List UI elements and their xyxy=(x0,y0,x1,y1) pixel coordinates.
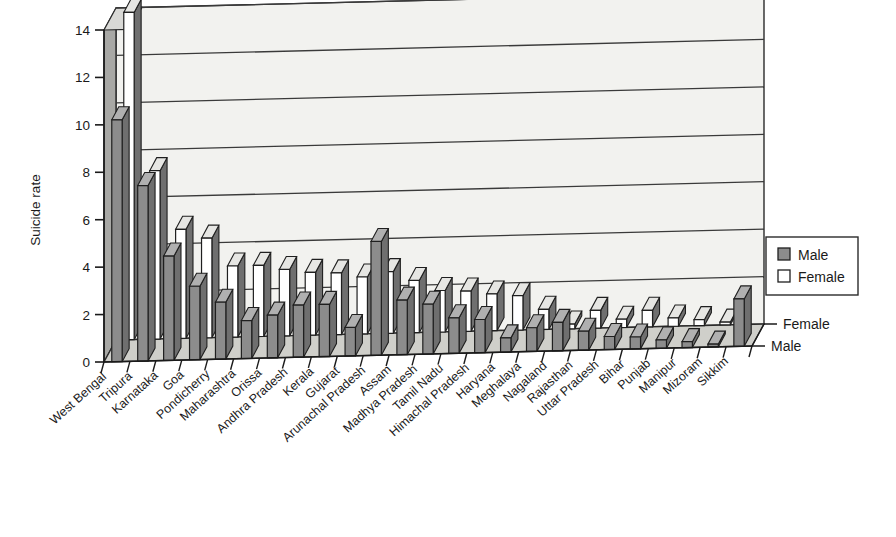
y-tick-label: 8 xyxy=(82,165,90,180)
bar xyxy=(423,291,440,354)
y-axis: 02468101214 xyxy=(75,23,104,370)
bar xyxy=(267,302,284,358)
bar xyxy=(215,289,232,359)
y-tick-label: 6 xyxy=(82,213,90,228)
legend-label: Male xyxy=(798,247,829,263)
depth-axis-label: Male xyxy=(771,338,802,354)
bar xyxy=(138,173,155,361)
bar xyxy=(319,291,336,356)
y-axis-title: Suicide rate xyxy=(28,174,43,245)
legend-label: Female xyxy=(798,269,845,285)
legend-swatch xyxy=(778,270,790,282)
bar xyxy=(397,287,414,355)
bar xyxy=(241,308,258,359)
y-tick-label: 12 xyxy=(75,70,90,85)
bar xyxy=(112,107,129,362)
y-tick-label: 10 xyxy=(75,118,90,133)
bar xyxy=(190,273,207,360)
y-tick-label: 4 xyxy=(82,260,90,275)
bar xyxy=(293,292,310,357)
bar xyxy=(164,243,181,360)
legend-swatch xyxy=(778,248,790,260)
depth-axis-label: Female xyxy=(783,316,830,332)
bar xyxy=(371,228,388,355)
y-tick-label: 0 xyxy=(82,355,90,370)
bar xyxy=(449,305,466,354)
chart-figure: 02468101214 West BengalTripuraKarnatakaG… xyxy=(0,0,896,537)
suicide-rate-3d-bar-chart: 02468101214 West BengalTripuraKarnatakaG… xyxy=(0,0,896,537)
bar xyxy=(734,286,751,346)
x-axis: West BengalTripuraKarnatakaGoaPondicherr… xyxy=(47,346,752,445)
y-tick-label: 2 xyxy=(82,308,90,323)
y-tick-label: 14 xyxy=(75,23,91,38)
bar xyxy=(513,283,530,330)
chart-legend: MaleFemale xyxy=(766,237,858,295)
